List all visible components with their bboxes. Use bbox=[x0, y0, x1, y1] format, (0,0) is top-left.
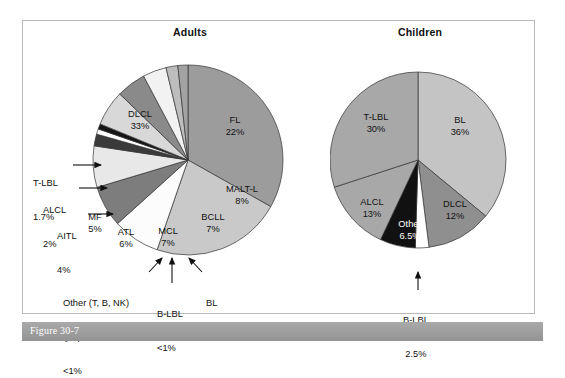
figure-caption-bar: Figure 30-7 bbox=[22, 322, 543, 341]
adults-label-other-pct: <1% bbox=[63, 366, 129, 377]
children-label-blbl-pct: 2.5% bbox=[403, 349, 429, 360]
arrow-other-icon bbox=[149, 258, 162, 272]
figure-caption-text: Figure 30-7 bbox=[30, 325, 79, 336]
arrow-bl-icon bbox=[189, 258, 202, 272]
